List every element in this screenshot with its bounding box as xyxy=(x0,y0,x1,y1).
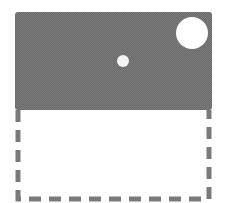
small-dot xyxy=(117,55,129,67)
dashed-region-outline xyxy=(18,110,209,199)
large-circle xyxy=(176,17,208,49)
diagram xyxy=(0,0,225,203)
